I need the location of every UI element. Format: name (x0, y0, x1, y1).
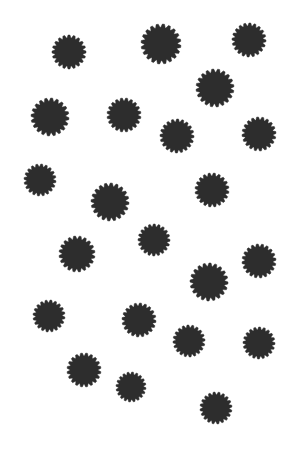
starburst-spikes (67, 353, 101, 387)
series-starbursts (24, 23, 276, 424)
starburst-spikes (33, 300, 65, 332)
starburst-marker (141, 24, 181, 64)
starburst-spikes (122, 303, 156, 337)
starburst-marker (59, 236, 95, 272)
starburst-spikes (196, 69, 234, 107)
starburst-spikes (195, 173, 229, 207)
starburst-spikes (190, 263, 228, 301)
starburst-spikes (160, 119, 194, 153)
scatter-canvas (0, 0, 304, 473)
starburst-marker (160, 119, 194, 153)
starburst-marker (242, 117, 276, 151)
starburst-marker (195, 173, 229, 207)
starburst-spikes (24, 164, 56, 196)
starburst-marker (242, 244, 276, 278)
starburst-spikes (91, 183, 129, 221)
starburst-marker (116, 372, 146, 402)
starburst-scatter-plot (0, 0, 304, 473)
starburst-spikes (243, 327, 275, 359)
starburst-spikes (116, 372, 146, 402)
starburst-spikes (200, 392, 232, 424)
starburst-spikes (138, 224, 170, 256)
starburst-marker (122, 303, 156, 337)
starburst-marker (52, 35, 86, 69)
starburst-spikes (232, 23, 266, 57)
starburst-marker (33, 300, 65, 332)
starburst-spikes (242, 117, 276, 151)
starburst-spikes (59, 236, 95, 272)
starburst-spikes (141, 24, 181, 64)
starburst-marker (138, 224, 170, 256)
starburst-spikes (173, 325, 205, 357)
starburst-spikes (52, 35, 86, 69)
starburst-spikes (242, 244, 276, 278)
starburst-marker (67, 353, 101, 387)
starburst-marker (190, 263, 228, 301)
starburst-spikes (31, 98, 69, 136)
starburst-spikes (107, 98, 141, 132)
starburst-marker (24, 164, 56, 196)
starburst-marker (107, 98, 141, 132)
starburst-marker (91, 183, 129, 221)
starburst-marker (31, 98, 69, 136)
starburst-marker (196, 69, 234, 107)
starburst-marker (243, 327, 275, 359)
starburst-marker (173, 325, 205, 357)
starburst-marker (232, 23, 266, 57)
starburst-marker (200, 392, 232, 424)
